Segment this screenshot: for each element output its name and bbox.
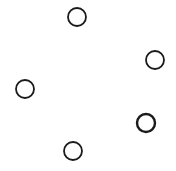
circle-node-lower-right xyxy=(137,114,155,132)
diagram-canvas xyxy=(0,0,176,171)
circle-node-right xyxy=(146,51,164,69)
circle-node-top xyxy=(68,8,86,26)
circle-node-left xyxy=(16,80,34,98)
circle-node-bottom xyxy=(64,142,82,160)
